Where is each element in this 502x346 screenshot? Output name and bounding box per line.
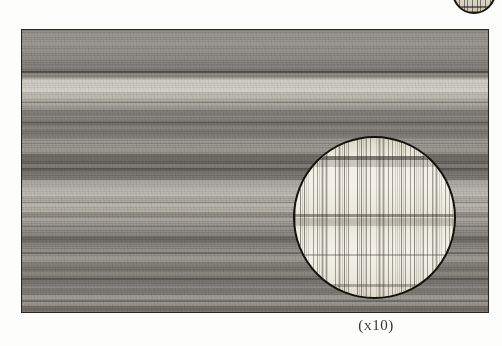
figure-page: (x10) bbox=[0, 0, 502, 346]
fragment-grain-band bbox=[452, 11, 496, 13]
magnification-caption: (x10) bbox=[336, 317, 416, 334]
magnified-ray-striations bbox=[293, 136, 456, 299]
clipped-circular-figure-above bbox=[452, 0, 496, 14]
fragment-grain-band bbox=[452, 6, 496, 8]
magnified-circular-inset bbox=[293, 136, 456, 299]
magnified-grain-band bbox=[293, 214, 456, 217]
magnified-grain-band bbox=[293, 160, 456, 167]
wood-grain-photograph bbox=[21, 29, 489, 313]
magnified-grain-band bbox=[293, 218, 456, 226]
magnified-grain-band bbox=[293, 254, 456, 256]
